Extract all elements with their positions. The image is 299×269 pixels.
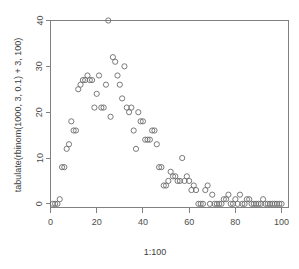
data-point <box>136 110 141 115</box>
x-tick-label: 40 <box>138 217 148 227</box>
y-tick-label: 0 <box>35 201 45 206</box>
data-point <box>113 59 118 64</box>
x-tick-label: 100 <box>274 217 289 227</box>
data-point <box>237 192 242 197</box>
data-point <box>226 192 231 197</box>
data-point <box>166 178 171 183</box>
y-tick-label: 30 <box>35 61 45 71</box>
y-axis-ticks: 010203040 <box>35 15 51 206</box>
data-point <box>115 73 120 78</box>
y-tick-label: 40 <box>35 15 45 25</box>
x-tick-label: 0 <box>48 217 53 227</box>
data-point <box>57 197 62 202</box>
data-point <box>69 119 74 124</box>
x-axis-ticks: 020406080100 <box>48 208 289 227</box>
y-axis-label: tabulate(rbinom(1000, 3, 0.1) + 3, 100) <box>13 38 23 192</box>
plot-frame <box>51 21 289 208</box>
data-point <box>210 192 215 197</box>
y-tick-label: 20 <box>35 107 45 117</box>
data-point <box>108 114 113 119</box>
data-point <box>103 82 108 87</box>
data-points <box>50 18 284 207</box>
data-point <box>180 155 185 160</box>
data-point <box>133 146 138 151</box>
data-point <box>66 142 71 147</box>
x-tick-label: 80 <box>230 217 240 227</box>
y-tick-label: 10 <box>35 153 45 163</box>
data-point <box>122 64 127 69</box>
data-point <box>205 183 210 188</box>
x-tick-label: 20 <box>92 217 102 227</box>
data-point <box>94 91 99 96</box>
data-point <box>96 73 101 78</box>
x-tick-label: 60 <box>184 217 194 227</box>
scatter-plot-figure: 020406080100 010203040 1:100 tabulate(rb… <box>0 0 299 269</box>
data-point <box>117 82 122 87</box>
data-point <box>120 96 125 101</box>
data-point <box>154 142 159 147</box>
plot-canvas: 020406080100 010203040 1:100 tabulate(rb… <box>0 0 299 269</box>
data-point <box>131 128 136 133</box>
x-axis-label: 1:100 <box>144 247 167 257</box>
data-point <box>92 105 97 110</box>
